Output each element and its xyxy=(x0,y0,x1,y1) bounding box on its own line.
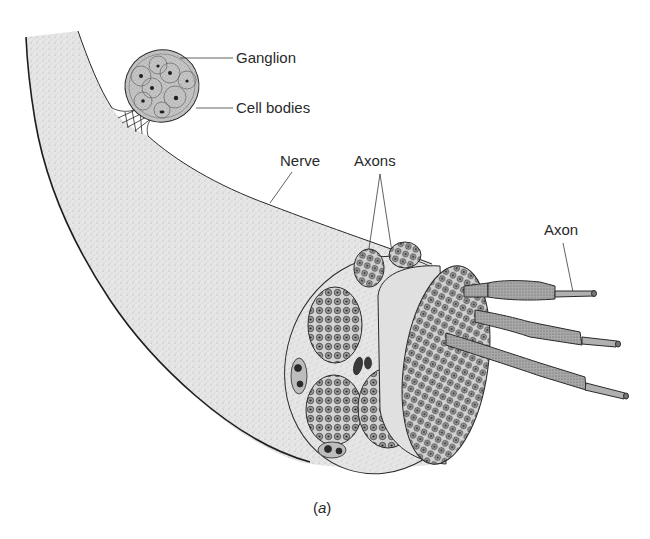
nerve-diagram: Ganglion Cell bodies Nerve Axons Axon (a… xyxy=(0,0,650,539)
label-axons: Axons xyxy=(354,153,396,168)
ganglion xyxy=(117,42,207,131)
fascicle xyxy=(389,242,421,268)
label-cell-bodies: Cell bodies xyxy=(236,100,310,115)
axon-1 xyxy=(464,281,597,300)
fascicle xyxy=(306,375,362,445)
figure-caption-letter: a xyxy=(318,499,326,516)
nerve-illustration xyxy=(0,0,650,539)
figure-caption: (a) xyxy=(313,500,331,515)
label-ganglion: Ganglion xyxy=(236,50,296,65)
axon-2 xyxy=(475,310,621,347)
fascicle xyxy=(354,249,384,287)
fascicle xyxy=(308,287,362,363)
label-axon: Axon xyxy=(544,222,578,237)
label-nerve: Nerve xyxy=(280,153,320,168)
